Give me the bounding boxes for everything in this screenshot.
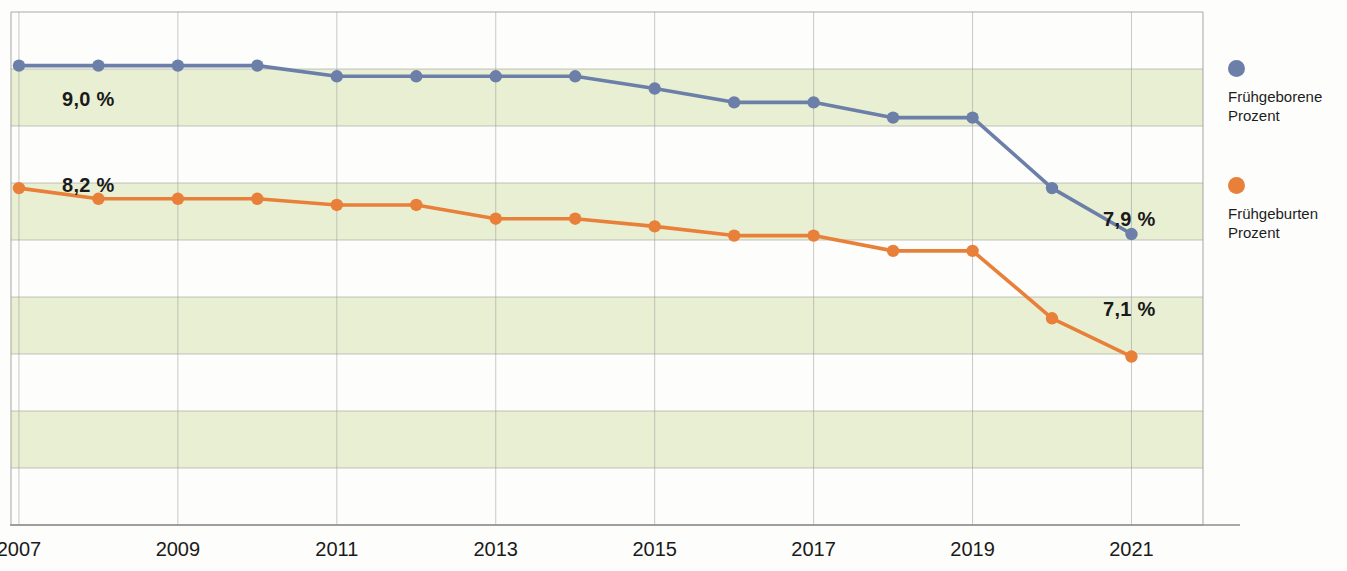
data-point[interactable]	[92, 59, 104, 71]
data-point[interactable]	[172, 59, 184, 71]
data-point[interactable]	[331, 70, 343, 82]
x-tick-label-2021: 2021	[1109, 538, 1154, 561]
data-point[interactable]	[410, 199, 422, 211]
data-point[interactable]	[13, 182, 25, 194]
data-point[interactable]	[728, 96, 740, 108]
data-point[interactable]	[331, 199, 343, 211]
chart-page: 9,0 % 8,2 % 7,9 % 7,1 % 2007200920112013…	[0, 0, 1347, 571]
x-tick-label-2017: 2017	[791, 538, 836, 561]
data-point[interactable]	[251, 59, 263, 71]
x-tick-label-2009: 2009	[156, 538, 201, 561]
legend-entry-fruehgeburten[interactable]: Frühgeburten Prozent	[1228, 177, 1318, 242]
data-point[interactable]	[966, 245, 978, 257]
data-point[interactable]	[807, 229, 819, 241]
data-point[interactable]	[1125, 350, 1137, 362]
data-label-7-9: 7,9 %	[1103, 208, 1156, 231]
data-point[interactable]	[648, 220, 660, 232]
data-label-8-2: 8,2 %	[62, 174, 115, 197]
data-point[interactable]	[966, 111, 978, 123]
x-tick-label-2013: 2013	[473, 538, 518, 561]
data-point[interactable]	[887, 111, 899, 123]
data-label-7-1: 7,1 %	[1103, 298, 1156, 321]
x-tick-label-2007: 2007	[0, 538, 41, 561]
data-point[interactable]	[490, 213, 502, 225]
data-point[interactable]	[251, 193, 263, 205]
data-point[interactable]	[569, 213, 581, 225]
data-point[interactable]	[410, 70, 422, 82]
data-point[interactable]	[648, 82, 660, 94]
data-point[interactable]	[807, 96, 819, 108]
data-point[interactable]	[172, 193, 184, 205]
legend-marker-orange-dot-icon	[1228, 177, 1245, 194]
legend-label-fruehgeburten: Frühgeburten Prozent	[1228, 204, 1318, 242]
legend-label-fruehgeborene: Frühgeborene Prozent	[1228, 87, 1322, 125]
data-point[interactable]	[887, 245, 899, 257]
chart-plot-svg	[0, 0, 1347, 571]
legend-entry-fruehgeborene[interactable]: Frühgeborene Prozent	[1228, 60, 1322, 125]
x-tick-label-2015: 2015	[632, 538, 677, 561]
data-point[interactable]	[1046, 312, 1058, 324]
data-point[interactable]	[13, 59, 25, 71]
data-point[interactable]	[728, 229, 740, 241]
data-point[interactable]	[1046, 182, 1058, 194]
data-point[interactable]	[490, 70, 502, 82]
line-chart: 9,0 % 8,2 % 7,9 % 7,1 % 2007200920112013…	[0, 0, 1347, 571]
data-label-9-0: 9,0 %	[62, 88, 115, 111]
data-point[interactable]	[569, 70, 581, 82]
legend-marker-blue-dot-icon	[1228, 60, 1245, 77]
x-tick-label-2011: 2011	[315, 538, 358, 561]
alternating-row-bands	[11, 69, 1203, 468]
x-tick-label-2019: 2019	[950, 538, 995, 561]
